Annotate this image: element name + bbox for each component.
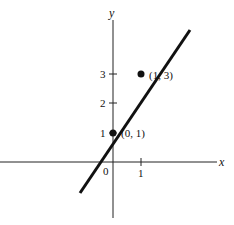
origin-label: 0 — [103, 165, 109, 177]
x-axis-label: x — [218, 155, 225, 169]
y-axis-label: y — [108, 6, 115, 20]
data-line — [80, 30, 190, 193]
y-tick-label-1: 1 — [100, 127, 106, 139]
line-graph: x y 0 1 1 2 3 (0, 1) (1, 3) — [0, 0, 234, 225]
y-tick-label-2: 2 — [100, 97, 106, 109]
point-0-1 — [110, 130, 117, 137]
x-tick-label-1: 1 — [138, 167, 144, 179]
y-tick-label-3: 3 — [100, 68, 106, 80]
point-1-3-label: (1, 3) — [149, 69, 173, 82]
point-0-1-label: (0, 1) — [121, 127, 145, 140]
point-1-3 — [138, 71, 145, 78]
